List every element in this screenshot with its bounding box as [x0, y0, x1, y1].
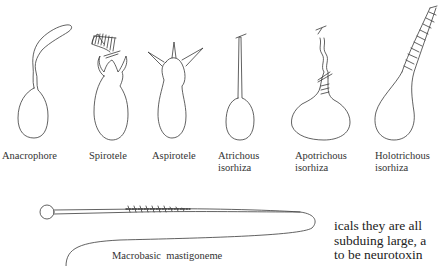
label-spirotele: Spirotele: [89, 150, 127, 162]
label-atrichous-isorhiza: Atrichousisorhiza: [218, 150, 259, 174]
body-text-line: icals they are all: [334, 219, 426, 234]
label-aspirotele: Aspirotele: [152, 150, 196, 162]
holotrichous-isorhiza-drawing: [375, 6, 437, 140]
aspirotele-drawing: [148, 42, 203, 138]
spirotele-drawing: [92, 34, 128, 140]
anacrophore-drawing: [18, 25, 72, 138]
atrichous-isorhiza-drawing: [226, 34, 254, 140]
label-macrobasic-mastigoneme: Macrobasic mastigoneme: [112, 250, 222, 262]
body-text-line: to be neurotoxin: [334, 248, 426, 263]
label-apotrichous-isorhiza: Apotrichousisorhiza: [295, 150, 347, 174]
label-anacrophore: Anacrophore: [2, 150, 57, 162]
label-holotrichous-isorhiza: Holotrichousisorhiza: [375, 150, 430, 174]
body-text-line: subduing large, a: [334, 234, 426, 249]
body-text-fragment: icals they are all subduing large, a to …: [334, 219, 426, 263]
apotrichous-isorhiza-drawing: [291, 26, 350, 140]
